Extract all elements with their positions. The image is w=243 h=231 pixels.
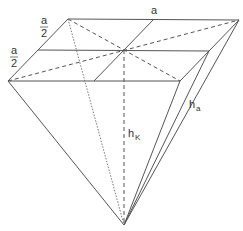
lateral-edge-left (8, 81, 124, 225)
svg-text:h: h (189, 98, 195, 110)
svg-text:K: K (135, 133, 141, 142)
svg-text:a: a (41, 14, 48, 26)
label-base-edge-a: a (151, 4, 158, 16)
svg-text:2: 2 (41, 27, 47, 39)
svg-text:a: a (11, 44, 18, 56)
lateral-edge-front-right (124, 81, 180, 225)
label-slant-height: h a (189, 98, 201, 113)
label-half-edge-top: a 2 (40, 14, 48, 39)
svg-text:a: a (196, 104, 201, 113)
pyramid-diagram: a a 2 a 2 h a h K (0, 0, 243, 231)
label-half-edge-bottom: a 2 (10, 44, 18, 69)
label-height: h K (128, 127, 141, 142)
svg-text:h: h (128, 127, 134, 139)
svg-text:2: 2 (11, 57, 17, 69)
